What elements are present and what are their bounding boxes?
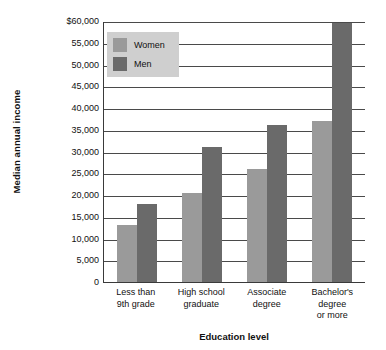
legend-label: Women (134, 40, 165, 50)
legend: WomenMen (107, 32, 179, 77)
y-axis-title-text: Median annual income (12, 90, 23, 194)
legend-item-women: Women (113, 37, 173, 53)
x-axis-title: Education level (103, 331, 365, 342)
y-axis-tick-label: 35,000 (37, 126, 99, 135)
bar-women (117, 225, 137, 282)
bar-chart: Median annual income $60,00055,00050,000… (0, 0, 386, 350)
legend-label: Men (134, 59, 152, 69)
y-axis-tick-label: 50,000 (37, 61, 99, 70)
y-axis-title: Median annual income (8, 0, 26, 283)
legend-swatch-men (113, 57, 127, 71)
y-axis-tick-label: 30,000 (37, 148, 99, 157)
y-axis-tick-labels: $60,00055,00050,00045,00040,00035,00030,… (33, 22, 99, 283)
y-axis-tick-label: 55,000 (37, 39, 99, 48)
y-axis-tick-label: 45,000 (37, 82, 99, 91)
y-axis-tick-label: 5,000 (37, 256, 99, 265)
bar-group (235, 22, 300, 282)
y-axis-tick-label: 20,000 (37, 191, 99, 200)
x-axis-category-label: High schoolgraduate (169, 287, 235, 322)
y-axis-tick-label: 40,000 (37, 104, 99, 113)
bar-group (169, 22, 234, 282)
y-axis-tick-label: $60,000 (37, 17, 99, 26)
bar-men (332, 23, 352, 282)
bar-women (247, 169, 267, 282)
legend-item-men: Men (113, 56, 173, 72)
bar-men (137, 204, 157, 282)
y-axis-tick-label: 10,000 (37, 235, 99, 244)
y-axis-tick-label: 0 (37, 278, 99, 287)
legend-swatch-women (113, 38, 127, 52)
bar-women (312, 121, 332, 282)
bar-group (300, 22, 365, 282)
bar-men (267, 125, 287, 282)
bar-women (182, 193, 202, 282)
x-axis-category-labels: Less than9th gradeHigh schoolgraduateAss… (103, 287, 365, 322)
y-axis-tick-label: 25,000 (37, 169, 99, 178)
y-axis-tick-label: 15,000 (37, 213, 99, 222)
x-axis-category-label: Less than9th grade (103, 287, 169, 322)
x-axis-category-label: Bachelor'sdegreeor more (300, 287, 366, 322)
bar-men (202, 147, 222, 282)
x-axis-category-label: Associatedegree (234, 287, 300, 322)
